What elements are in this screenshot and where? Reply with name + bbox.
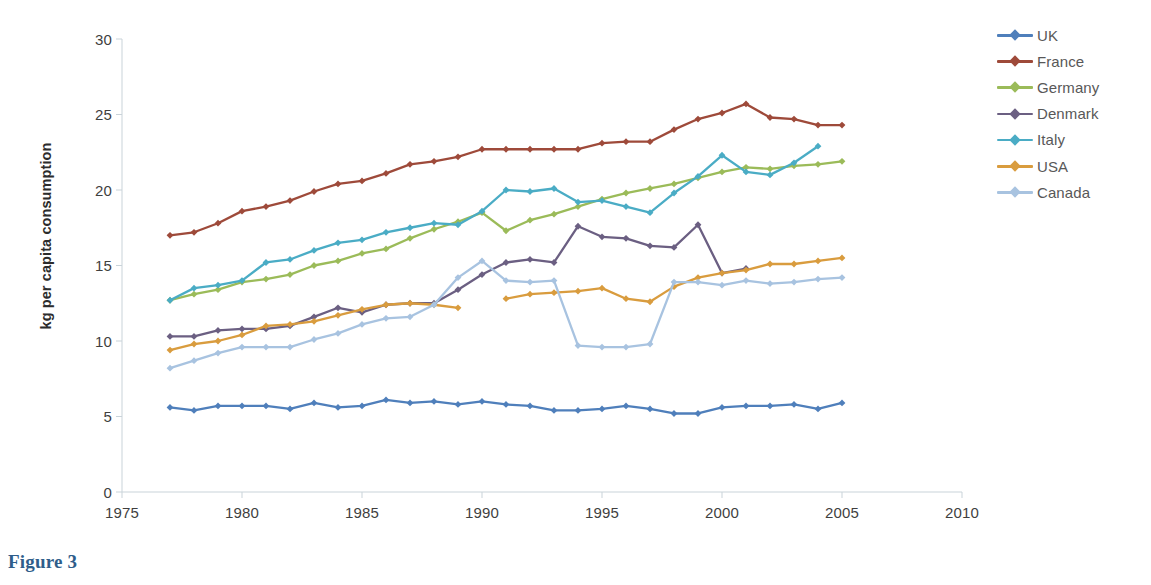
marker-uk-1988 <box>431 398 438 405</box>
marker-uk-1987 <box>407 400 414 407</box>
legend-item-italy[interactable]: Italy <box>997 127 1147 153</box>
marker-usa-1979 <box>215 338 222 345</box>
marker-canada-2005 <box>839 274 846 281</box>
marker-uk-1980 <box>239 403 246 410</box>
legend-item-usa[interactable]: USA <box>997 153 1147 179</box>
series-line-usa-0 <box>170 303 458 350</box>
y-tick-25: 25 <box>78 106 112 123</box>
chart-plot-area: 30 25 20 15 10 5 0 1975 1980 1985 1990 1… <box>0 0 1151 545</box>
legend-key-france-icon <box>997 54 1033 68</box>
legend-diamond-icon <box>1009 187 1020 198</box>
marker-germany-1992 <box>527 217 534 224</box>
marker-germany-1993 <box>551 211 558 218</box>
marker-usa-1995 <box>599 285 606 292</box>
marker-denmark-1977 <box>167 333 174 340</box>
marker-denmark-1979 <box>215 327 222 334</box>
marker-canada-1984 <box>335 330 342 337</box>
legend-item-canada[interactable]: Canada <box>997 179 1147 205</box>
marker-italy-1986 <box>383 229 390 236</box>
marker-france-2005 <box>839 122 846 129</box>
marker-uk-1997 <box>647 406 654 413</box>
y-tick-30: 30 <box>78 31 112 48</box>
marker-uk-1978 <box>191 407 198 414</box>
chart-legend: UKFranceGermanyDenmarkItalyUSACanada <box>997 22 1147 205</box>
marker-italy-1983 <box>311 247 318 254</box>
marker-france-1992 <box>527 146 534 153</box>
legend-label: France <box>1037 53 1084 70</box>
marker-usa-1980 <box>239 332 246 339</box>
legend-key-usa-icon <box>997 159 1033 173</box>
marker-italy-1987 <box>407 224 414 231</box>
line-chart-svg <box>0 0 1151 545</box>
marker-uk-1995 <box>599 406 606 413</box>
marker-uk-1991 <box>503 401 510 408</box>
marker-france-1994 <box>575 146 582 153</box>
marker-canada-1995 <box>599 344 606 351</box>
x-tick-1990: 1990 <box>452 504 512 521</box>
marker-canada-1985 <box>359 321 366 328</box>
marker-denmark-1995 <box>599 233 606 240</box>
marker-france-1989 <box>455 153 462 160</box>
marker-uk-1998 <box>671 410 678 417</box>
legend-item-france[interactable]: France <box>997 48 1147 74</box>
marker-france-1978 <box>191 229 198 236</box>
marker-france-1999 <box>695 116 702 123</box>
marker-canada-2001 <box>743 277 750 284</box>
legend-diamond-icon <box>1009 134 1020 145</box>
marker-usa-1984 <box>335 312 342 319</box>
figure-3-container: 30 25 20 15 10 5 0 1975 1980 1985 1990 1… <box>0 0 1151 585</box>
marker-france-2004 <box>815 122 822 129</box>
marker-france-1996 <box>623 138 630 145</box>
marker-germany-2004 <box>815 161 822 168</box>
marker-canada-1998 <box>671 279 678 286</box>
series-uk <box>167 396 846 416</box>
legend-label: Canada <box>1037 184 1090 201</box>
legend-label: Denmark <box>1037 105 1099 122</box>
marker-uk-1977 <box>167 404 174 411</box>
marker-uk-1992 <box>527 403 534 410</box>
marker-usa-1992 <box>527 291 534 298</box>
marker-germany-1996 <box>623 190 630 197</box>
marker-uk-1982 <box>287 406 294 413</box>
marker-canada-1980 <box>239 344 246 351</box>
legend-label: Germany <box>1037 79 1099 96</box>
marker-uk-1983 <box>311 400 318 407</box>
marker-uk-1996 <box>623 403 630 410</box>
legend-item-germany[interactable]: Germany <box>997 74 1147 100</box>
marker-italy-1979 <box>215 282 222 289</box>
marker-italy-1982 <box>287 256 294 263</box>
legend-key-italy-icon <box>997 133 1033 147</box>
marker-usa-1989 <box>455 304 462 311</box>
marker-uk-1999 <box>695 410 702 417</box>
legend-item-denmark[interactable]: Denmark <box>997 101 1147 127</box>
legend-label: UK <box>1037 27 1058 44</box>
marker-uk-1979 <box>215 403 222 410</box>
legend-item-uk[interactable]: UK <box>997 22 1147 48</box>
marker-germany-1978 <box>191 291 198 298</box>
marker-canada-1996 <box>623 344 630 351</box>
y-tick-20: 20 <box>78 182 112 199</box>
marker-italy-1985 <box>359 236 366 243</box>
marker-uk-1985 <box>359 403 366 410</box>
marker-usa-2003 <box>791 261 798 268</box>
y-axis-title: kg per capita consumption <box>38 116 54 356</box>
x-tick-2000: 2000 <box>692 504 752 521</box>
marker-france-1977 <box>167 232 174 239</box>
x-tick-2005: 2005 <box>812 504 872 521</box>
marker-uk-1994 <box>575 407 582 414</box>
marker-france-1985 <box>359 178 366 185</box>
marker-usa-1996 <box>623 295 630 302</box>
marker-germany-1982 <box>287 271 294 278</box>
marker-canada-1981 <box>263 344 270 351</box>
marker-germany-1986 <box>383 245 390 252</box>
marker-usa-1987 <box>407 300 414 307</box>
marker-canada-2004 <box>815 276 822 283</box>
marker-canada-2000 <box>719 282 726 289</box>
marker-uk-1981 <box>263 403 270 410</box>
marker-france-1984 <box>335 181 342 188</box>
marker-france-1990 <box>479 146 486 153</box>
x-tick-1980: 1980 <box>212 504 272 521</box>
legend-diamond-icon <box>1009 160 1020 171</box>
marker-italy-1984 <box>335 239 342 246</box>
marker-usa-2005 <box>839 255 846 262</box>
